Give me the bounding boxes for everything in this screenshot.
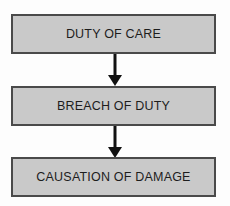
flowchart-node-label: DUTY OF CARE xyxy=(66,28,161,41)
flowchart-node-duty-of-care: DUTY OF CARE xyxy=(11,14,216,54)
arrow-down-icon xyxy=(0,126,230,158)
flowchart-arrow-duty-to-breach xyxy=(0,54,230,86)
flowchart-node-label: BREACH OF DUTY xyxy=(57,100,170,113)
flowchart-arrow-breach-to-causation xyxy=(0,126,230,158)
flowchart-node-breach-of-duty: BREACH OF DUTY xyxy=(11,86,216,126)
flowchart-node-causation-of-damage: CAUSATION OF DAMAGE xyxy=(11,157,216,197)
flowchart-node-label: CAUSATION OF DAMAGE xyxy=(36,171,190,184)
flowchart-diagram: DUTY OF CARE BREACH OF DUTY CAUSATION OF… xyxy=(0,0,230,206)
arrow-down-icon xyxy=(0,54,230,86)
